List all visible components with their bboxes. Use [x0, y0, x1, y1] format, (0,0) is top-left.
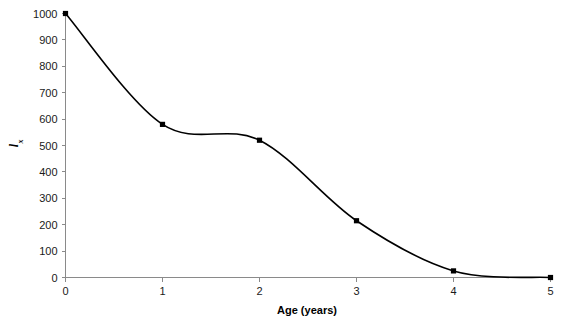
x-tick-label: 4	[450, 285, 456, 297]
x-tick-label: 5	[547, 285, 553, 297]
y-tick-label: 600	[39, 113, 57, 125]
x-tick-label: 3	[353, 285, 359, 297]
data-point-marker	[160, 122, 165, 127]
survivorship-chart: 01002003004005006007008009001000 012345 …	[0, 0, 566, 323]
y-tick-label: 800	[39, 60, 57, 72]
y-tick-label: 0	[51, 272, 57, 284]
data-point-marker	[257, 138, 262, 143]
data-point-marker	[354, 218, 359, 223]
y-tick-label: 400	[39, 166, 57, 178]
y-axis-title-subscript: x	[16, 140, 25, 145]
chart-background	[0, 0, 566, 323]
y-tick-label: 200	[39, 219, 57, 231]
data-point-marker	[548, 275, 553, 280]
y-tick-label: 500	[39, 140, 57, 152]
data-point-marker	[451, 268, 456, 273]
data-point-marker	[63, 11, 68, 16]
y-tick-label: 900	[39, 34, 57, 46]
x-axis-title: Age (years)	[277, 304, 337, 316]
chart-container: 01002003004005006007008009001000 012345 …	[0, 0, 566, 323]
y-tick-label: 1000	[33, 8, 57, 20]
y-tick-label: 100	[39, 245, 57, 257]
x-tick-label: 2	[256, 285, 262, 297]
y-tick-label: 700	[39, 87, 57, 99]
x-tick-label: 0	[62, 285, 68, 297]
y-tick-label: 300	[39, 192, 57, 204]
x-tick-label: 1	[159, 285, 165, 297]
